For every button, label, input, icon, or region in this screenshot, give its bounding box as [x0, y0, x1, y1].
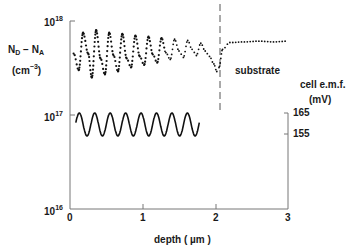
data-point [184, 51, 186, 53]
data-point [106, 55, 108, 57]
data-point [155, 60, 157, 62]
right-axis-title-line2: (mV) [309, 95, 331, 105]
data-point [74, 54, 76, 56]
data-point [187, 40, 189, 42]
data-point [216, 71, 218, 73]
data-point [88, 53, 90, 55]
data-point [119, 47, 121, 49]
data-point [146, 43, 148, 45]
data-point [96, 32, 98, 34]
data-point [80, 46, 82, 48]
data-point [190, 46, 192, 48]
data-point [200, 42, 202, 44]
data-point [172, 48, 174, 50]
data-point [78, 68, 80, 70]
data-point [98, 50, 100, 52]
data-point [100, 59, 102, 61]
data-point [249, 41, 251, 43]
data-point [127, 60, 129, 62]
y-tick-label-1e17: 1017 [44, 110, 63, 123]
data-point [79, 60, 81, 62]
data-point [150, 45, 152, 47]
data-point [105, 68, 107, 70]
data-point [132, 55, 134, 57]
data-point [122, 34, 124, 36]
data-point [118, 68, 120, 70]
data-point [94, 37, 96, 39]
data-point [126, 57, 128, 59]
data-point [139, 55, 141, 57]
data-point [203, 48, 205, 50]
data-point [106, 60, 108, 62]
data-point [140, 58, 142, 60]
data-point [146, 39, 148, 41]
data-point [106, 50, 108, 52]
data-point [113, 56, 115, 58]
data-point [281, 41, 283, 43]
data-point [98, 46, 100, 48]
data-point [232, 42, 234, 44]
data-point [168, 57, 170, 59]
data-point [130, 66, 132, 68]
data-point [261, 40, 263, 42]
data-point [107, 41, 109, 43]
data-point [131, 60, 133, 62]
data-point [117, 70, 119, 72]
data-point [197, 53, 199, 55]
data-point [175, 40, 177, 42]
data-point [212, 61, 214, 63]
data-point [99, 54, 101, 56]
axes-frame [70, 21, 288, 209]
data-point [183, 55, 185, 57]
data-point [270, 41, 272, 43]
data-point [276, 41, 278, 43]
data-point [83, 33, 85, 35]
data-point [165, 52, 167, 54]
data-point [84, 40, 86, 42]
data-point [185, 45, 187, 47]
data-point [167, 54, 169, 56]
data-point [149, 40, 151, 42]
data-point [224, 47, 226, 49]
data-point [102, 68, 104, 70]
data-point [81, 37, 83, 39]
data-point [144, 61, 146, 63]
x-tick-label-1: 1 [140, 213, 146, 223]
data-point [114, 60, 116, 62]
data-point [214, 65, 216, 67]
data-point [111, 50, 113, 52]
data-point [109, 36, 111, 38]
right-tick-label-155: 155 [293, 129, 310, 139]
data-point [215, 69, 217, 71]
data-point [255, 40, 257, 42]
data-point [183, 57, 185, 59]
data-point [186, 41, 188, 43]
data-point [229, 42, 231, 44]
data-point [76, 63, 78, 65]
data-point [105, 64, 107, 66]
y-axis-title-line1: ND − NA [8, 45, 44, 56]
data-point [110, 41, 112, 43]
data-point [93, 55, 95, 57]
data-point [180, 53, 182, 55]
data-point [188, 42, 190, 44]
data-point [221, 53, 223, 55]
data-point [92, 60, 94, 62]
data-point [162, 42, 164, 44]
data-point [118, 65, 120, 67]
data-point [163, 47, 165, 49]
right-tick-label-165: 165 [293, 108, 310, 118]
data-point [120, 38, 122, 40]
emf-series [76, 113, 200, 136]
x-tick-label-3: 3 [285, 213, 291, 223]
data-point [159, 41, 161, 43]
data-point [219, 62, 221, 64]
data-point [157, 58, 159, 60]
data-point [235, 41, 237, 43]
data-point [122, 36, 124, 38]
data-point [178, 50, 180, 52]
data-point [157, 61, 159, 63]
data-point [142, 62, 144, 64]
data-point [97, 36, 99, 38]
data-point [210, 57, 212, 59]
